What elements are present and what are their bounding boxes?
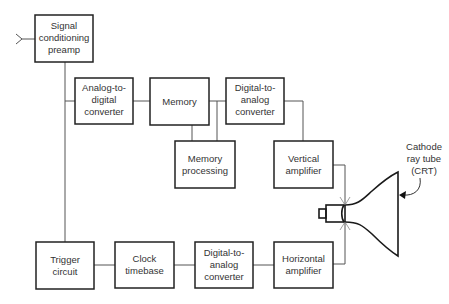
block-trigger-circuit: Trigger circuit: [36, 242, 94, 289]
oscilloscope-block-diagram: Signal conditioning preamp Analog-to- di…: [0, 0, 449, 304]
svg-text:(CRT): (CRT): [411, 165, 437, 176]
block-dac-horizontal: Digital-to- analog converter: [195, 242, 253, 288]
svg-text:Cathode: Cathode: [406, 141, 442, 152]
block-memory: Memory: [150, 78, 209, 125]
crt-label: Cathode ray tube (CRT): [399, 141, 442, 199]
block-label: analog: [210, 259, 239, 270]
block-label: Digital-to-: [235, 82, 276, 93]
block-label: amplifier: [286, 265, 322, 276]
block-label: amplifier: [286, 165, 322, 176]
block-label: processing: [182, 165, 228, 176]
block-label: preamp: [48, 44, 80, 55]
block-label: converter: [84, 106, 124, 117]
block-vertical-amplifier: Vertical amplifier: [274, 141, 333, 188]
block-label: timebase: [125, 265, 164, 276]
block-dac-vertical: Digital-to- analog converter: [226, 78, 284, 124]
signal-input-icon: [16, 34, 35, 44]
block-memory-processing: Memory processing: [175, 141, 235, 188]
block-label: Analog-to-: [82, 82, 126, 93]
block-label: Digital-to-: [204, 247, 245, 258]
block-signal-preamp: Signal conditioning preamp: [35, 15, 93, 62]
block-horizontal-amplifier: Horizontal amplifier: [274, 242, 333, 288]
block-label: Memory: [188, 153, 223, 164]
block-label: digital: [92, 94, 117, 105]
block-label: analog: [241, 94, 270, 105]
block-label: converter: [204, 271, 244, 282]
block-label: circuit: [53, 266, 78, 277]
block-label: Trigger: [50, 254, 80, 265]
block-label: Horizontal: [282, 253, 325, 264]
block-label: Memory: [162, 96, 197, 107]
block-clock-timebase: Clock timebase: [115, 242, 174, 288]
block-label: converter: [235, 106, 275, 117]
svg-text:ray tube: ray tube: [407, 153, 441, 164]
block-adc: Analog-to- digital converter: [75, 78, 133, 124]
block-label: Vertical: [288, 153, 319, 164]
block-label: conditioning: [39, 32, 90, 43]
block-label: Clock: [133, 253, 157, 264]
block-label: Signal: [51, 20, 77, 31]
